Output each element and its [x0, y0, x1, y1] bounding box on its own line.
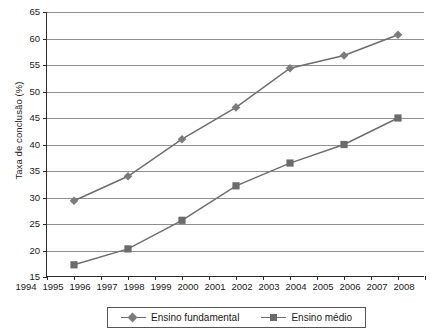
legend-item-ensino-fundamental[interactable]: Ensino fundamental: [121, 312, 239, 323]
square-data-point: [394, 114, 401, 121]
y-axis-tick-label: 60: [6, 34, 40, 44]
legend-item-ensino-medio[interactable]: Ensino médio: [261, 312, 352, 323]
y-axis-tick-label: 45: [6, 113, 40, 123]
legend-label: Ensino médio: [291, 312, 352, 323]
square-data-point: [178, 217, 185, 224]
x-axis-tick-label: 2008: [384, 282, 424, 292]
y-axis-tick-label: 55: [6, 60, 40, 70]
square-data-point: [340, 141, 347, 148]
diamond-data-point: [178, 135, 187, 144]
square-data-point: [286, 159, 293, 166]
square-data-point: [232, 182, 239, 189]
square-data-point: [70, 261, 77, 268]
square-data-point: [124, 245, 131, 252]
data-series-layer: [47, 12, 425, 277]
diamond-marker-icon: [121, 313, 146, 323]
square-marker-icon: [261, 313, 286, 323]
y-axis-tick-label: 65: [6, 7, 40, 17]
x-axis-tick: [425, 276, 426, 280]
y-axis-tick-label: 50: [6, 87, 40, 97]
y-axis-tick-label: 20: [6, 246, 40, 256]
y-axis-tick-label: 25: [6, 219, 40, 229]
plot-area: [46, 12, 424, 277]
diamond-data-point: [394, 30, 403, 39]
y-axis-tick-label: 30: [6, 193, 40, 203]
chart-container: Taxa de conclusão (%) 152025303540455055…: [0, 0, 437, 333]
chart-legend: Ensino fundamental Ensino médio: [107, 307, 366, 328]
y-axis-tick-label: 35: [6, 166, 40, 176]
series-line-ensino-medio: [74, 118, 398, 265]
diamond-data-point: [340, 51, 349, 60]
y-axis-tick-label: 40: [6, 140, 40, 150]
diamond-data-point: [124, 172, 133, 181]
series-line-ensino-fundamental: [74, 35, 398, 201]
legend-label: Ensino fundamental: [151, 312, 239, 323]
diamond-data-point: [70, 196, 79, 205]
y-axis-title: Taxa de conclusão (%): [13, 56, 24, 206]
